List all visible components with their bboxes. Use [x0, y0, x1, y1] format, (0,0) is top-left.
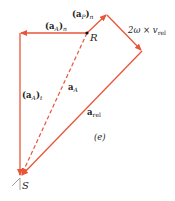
label-aA-t: (aA)t — [22, 90, 43, 101]
label-aP-n: (aP)n — [72, 9, 94, 20]
figure-caption: (e) — [94, 132, 106, 142]
label-a-rel: arel — [87, 107, 101, 118]
label-S: S — [22, 180, 29, 191]
acceleration-polygon-diagram: R S (aA)n (aP)n 2ω × vrel (aA)t aA arel … — [0, 0, 175, 201]
label-aA-n: (aA)n — [45, 21, 67, 32]
label-aA: aA — [68, 82, 79, 93]
vector-aA — [22, 33, 87, 174]
label-coriolis: 2ω × vrel — [127, 25, 166, 36]
label-R: R — [89, 32, 98, 43]
ground-mark — [12, 178, 20, 186]
point-R — [85, 31, 88, 34]
vector-a-rel — [22, 51, 142, 175]
